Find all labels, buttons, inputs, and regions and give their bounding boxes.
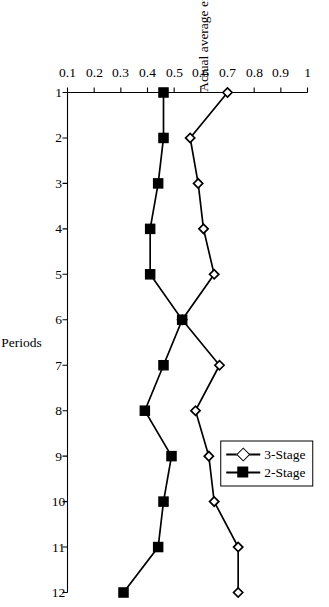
- open-diamond-marker-icon: [198, 224, 207, 233]
- legend-label-3-stage: 3-Stage: [264, 447, 305, 461]
- legend-label-2-stage: 2-Stage: [264, 465, 305, 479]
- y-axis-tick-label: 0.8: [245, 64, 262, 80]
- x-axis-title: Periods: [1, 334, 42, 350]
- filled-square-marker-icon: [158, 133, 167, 142]
- open-diamond-marker-icon: [209, 269, 218, 278]
- y-axis-tick-label: 0.4: [139, 64, 156, 80]
- filled-square-marker-icon: [145, 269, 154, 278]
- open-diamond-marker-icon: [204, 451, 213, 460]
- x-axis-tick-label: 12: [51, 584, 65, 600]
- x-axis-tick-label: 9: [55, 448, 62, 464]
- filled-square-marker-icon: [177, 315, 186, 324]
- filled-square-marker-icon: [145, 224, 154, 233]
- filled-square-marker-icon: [153, 178, 162, 187]
- rotated-figure-container: 3-Stage 2-Stage Periods Actual average e…: [0, 0, 329, 607]
- legend-item-2-stage: 2-Stage: [226, 463, 305, 481]
- filled-square-marker-icon: [158, 87, 167, 96]
- legend-item-3-stage: 3-Stage: [226, 445, 305, 463]
- x-axis-tick-label: 8: [55, 402, 62, 418]
- x-axis-tick-label: 6: [55, 311, 62, 327]
- x-axis-tick-label: 11: [52, 539, 65, 555]
- y-axis-tick-label: 0.2: [85, 64, 102, 80]
- y-axis-tick-label: 0.1: [59, 64, 76, 80]
- open-diamond-marker-icon: [193, 178, 202, 187]
- open-diamond-marker-icon: [222, 87, 231, 96]
- y-axis-tick-label: 0.3: [112, 64, 129, 80]
- x-axis-tick-label: 7: [55, 357, 62, 373]
- open-diamond-marker-icon: [226, 447, 260, 461]
- filled-square-marker-icon: [158, 496, 167, 505]
- series-line-3-stage: [182, 92, 238, 592]
- filled-square-marker-icon: [140, 406, 149, 415]
- filled-square-marker-icon: [118, 587, 127, 596]
- y-axis-tick-label: 0.5: [165, 64, 182, 80]
- x-axis-tick-label: 5: [55, 266, 62, 282]
- open-diamond-marker-icon: [233, 587, 242, 596]
- x-axis-tick-label: 4: [55, 220, 62, 236]
- series-line-2-stage: [123, 92, 182, 592]
- chart-legend: 3-Stage 2-Stage: [220, 440, 313, 486]
- y-axis-tick-label: 1: [304, 64, 311, 80]
- x-axis-tick-label: 1: [55, 84, 62, 100]
- filled-square-marker-icon: [153, 542, 162, 551]
- filled-square-marker-icon: [226, 465, 260, 479]
- y-axis-tick-label: 0.9: [272, 64, 289, 80]
- filled-square-marker-icon: [158, 360, 167, 369]
- chart-canvas: [0, 0, 329, 607]
- filled-square-marker-icon: [166, 451, 175, 460]
- x-axis-tick-label: 10: [51, 493, 65, 509]
- y-axis-tick-label: 0.6: [192, 64, 209, 80]
- y-axis-tick-label: 0.7: [219, 64, 236, 80]
- x-axis-tick-label: 2: [55, 129, 62, 145]
- open-diamond-marker-icon: [233, 542, 242, 551]
- open-diamond-marker-icon: [209, 496, 218, 505]
- x-axis-tick-label: 3: [55, 175, 62, 191]
